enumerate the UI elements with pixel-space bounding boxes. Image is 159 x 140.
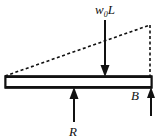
resultant-load-label-base: w xyxy=(95,2,104,17)
load-hypotenuse-dashed-line xyxy=(5,25,150,76)
resultant-load-arrow-head xyxy=(101,65,110,77)
reaction-r-arrow xyxy=(70,87,79,122)
reaction-b-arrow xyxy=(147,87,155,116)
diagram-canvas: w0L R B xyxy=(0,0,159,140)
beam xyxy=(5,76,152,88)
reaction-b-label: B xyxy=(131,88,139,103)
distributed-load-triangle xyxy=(5,25,150,76)
resultant-load-label-suffix: L xyxy=(107,2,115,17)
free-body-diagram: w0L R B xyxy=(0,0,159,140)
resultant-load-arrow xyxy=(101,20,110,77)
resultant-load-label: w0L xyxy=(95,2,115,19)
reaction-r-arrow-head xyxy=(70,87,79,99)
reaction-r-label: R xyxy=(68,124,77,139)
